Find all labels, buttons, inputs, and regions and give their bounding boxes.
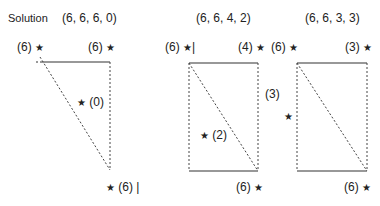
star-icon: ★ xyxy=(284,110,293,124)
panel-2-bottom-right-label: (6) ★ xyxy=(236,180,263,195)
panel-3-top-right-value: (3) xyxy=(345,40,360,54)
star-icon: ★ xyxy=(183,42,192,53)
panel-1-top-left-label: (6) ★ xyxy=(17,40,44,55)
panel-3-tuple: (6, 6, 3, 3) xyxy=(305,11,360,25)
star-icon: ★ xyxy=(77,97,86,108)
panel-3-shape xyxy=(297,63,367,171)
panel-2-bottom-right-value: (6) xyxy=(236,180,251,194)
panel-3-bottom-right-label: (6) ★ xyxy=(344,180,371,195)
panel-3-top-right-label: (3) ★ xyxy=(345,40,372,55)
panel-3-top-left-value: (6) xyxy=(271,40,286,54)
panel-1-diagonal xyxy=(40,57,110,170)
panel-2-top-right-value: (4) xyxy=(238,40,253,54)
star-icon: ★ xyxy=(289,42,298,53)
panel-2-inner-label: ★ (2) xyxy=(200,128,227,143)
star-icon: ★ xyxy=(363,42,372,53)
star-icon: ★ xyxy=(106,182,115,193)
diagram-lines xyxy=(0,0,380,206)
panel-2-shape xyxy=(189,63,258,171)
bar-mark: | xyxy=(136,180,139,194)
panel-1-bottom-right-label: ★ (6) | xyxy=(106,180,139,195)
panel-2-diagonal xyxy=(189,63,258,171)
panel-1-top-right-label: (6) ★ xyxy=(88,40,115,55)
star-icon: ★ xyxy=(200,130,209,141)
star-icon: ★ xyxy=(256,42,265,53)
panel-1-tuple: (6, 6, 6, 0) xyxy=(62,11,117,25)
star-icon: ★ xyxy=(106,42,115,53)
panel-3-diagonal xyxy=(297,63,367,171)
star-icon: ★ xyxy=(35,42,44,53)
panel-1-inner-label: ★ (0) xyxy=(77,95,104,110)
panel-1-shape xyxy=(36,57,110,170)
panel-1-top-right-value: (6) xyxy=(88,40,103,54)
panel-1-inner-value: (0) xyxy=(89,95,104,109)
bar-mark: | xyxy=(192,40,195,54)
panel-2-inner-value: (2) xyxy=(212,128,227,142)
panel-1-top-left-value: (6) xyxy=(17,40,32,54)
panel-3-bottom-right-value: (6) xyxy=(344,180,359,194)
panel-2-tuple: (6, 6, 4, 2) xyxy=(196,11,251,25)
panel-1-bottom-right-value: (6) xyxy=(118,180,133,194)
panel-2-top-left-value: (6) xyxy=(165,40,180,54)
star-icon: ★ xyxy=(254,182,263,193)
panel-3-left-label: (3) xyxy=(265,87,280,101)
star-icon: ★ xyxy=(362,182,371,193)
panel-3-top-left-label: (6) ★ xyxy=(271,40,298,55)
panel-2-top-right-label: (4) ★ xyxy=(238,40,265,55)
panel-2-top-left-label: (6) ★| xyxy=(165,40,195,55)
solution-title: Solution xyxy=(8,11,48,25)
